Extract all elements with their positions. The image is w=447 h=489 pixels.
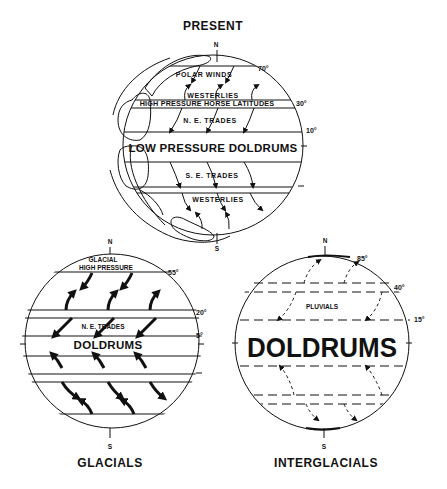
band-westerlies-n: WESTERLIES: [187, 92, 239, 99]
band-doldrums-large: DOLDRUMS: [247, 333, 397, 363]
band-pluvials: PLUVIALS: [306, 303, 339, 310]
glacials-title: GLACIALS: [77, 456, 142, 470]
interglacials-north-label: N: [323, 237, 328, 244]
band-low-pressure-doldrums: LOW PRESSURE DOLDRUMS: [128, 142, 297, 154]
present-globe: PRESENT N POLAR WINDS WESTERLIES HIGH PR…: [110, 19, 317, 252]
lat-20: 20°: [196, 309, 207, 316]
present-north-label: N: [214, 41, 219, 48]
band-ne-trades: N. E. TRADES: [183, 117, 236, 124]
band-high-pressure: HIGH PRESSURE: [79, 264, 133, 271]
lat-30: 30°: [296, 100, 307, 107]
lat-70: 70°: [258, 65, 269, 72]
paleoclimate-wind-belts-diagram: PRESENT N POLAR WINDS WESTERLIES HIGH PR…: [0, 0, 447, 489]
band-horse-latitudes: HIGH PRESSURE HORSE LATITUDES: [140, 99, 275, 108]
band-polar-winds: POLAR WINDS: [176, 71, 232, 78]
lat-40: 40°: [394, 284, 405, 291]
lat-55: 55°: [168, 269, 179, 276]
glacials-globe: N GLACIAL HIGH PRESSURE N. E. TRADES DOL…: [20, 238, 220, 470]
glacials-north-label: N: [108, 238, 113, 245]
polar-cap-s: [306, 428, 340, 430]
lat-10: 10°: [306, 127, 317, 134]
lat-15: 15°: [414, 316, 425, 323]
interglacials-globe: N PLUVIALS DOLDRUMS 85° 40° 15°: [232, 237, 425, 470]
glacials-south-label: S: [108, 443, 113, 450]
present-south-label: S: [215, 245, 220, 252]
lat-85: 85°: [357, 255, 368, 262]
lat-5: 5°: [196, 332, 203, 339]
band-doldrums: DOLDRUMS: [74, 339, 143, 351]
band-glacial: GLACIAL: [89, 256, 118, 263]
interglacials-title: INTERGLACIALS: [274, 456, 378, 470]
interglacials-south-label: S: [322, 443, 327, 450]
present-title: PRESENT: [183, 19, 243, 33]
